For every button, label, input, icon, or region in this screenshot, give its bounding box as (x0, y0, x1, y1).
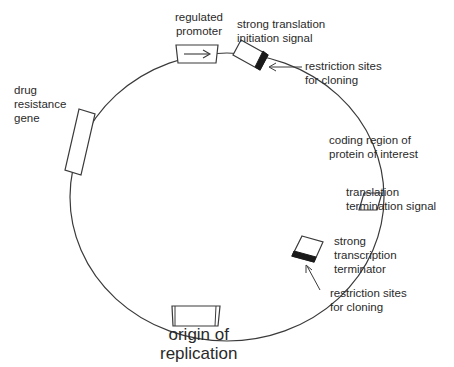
label-drug-resistance-gene: drug resistance gene (14, 83, 66, 125)
label-coding-region: coding region of protein of interest (329, 133, 418, 161)
label-translation-initiation-signal: strong translation initiation signal (237, 17, 325, 45)
label-translation-termination-signal: translation termination signal (346, 185, 436, 213)
label-transcription-terminator: strong transcription terminator (334, 234, 397, 276)
label-line: restriction sites (330, 286, 407, 300)
label-line: resistance (14, 97, 66, 111)
label-line: terminator (334, 262, 397, 276)
label-line: for cloning (305, 73, 382, 87)
label-line: origin of (160, 325, 238, 344)
label-line: strong (334, 234, 397, 248)
label-line: transcription (334, 248, 397, 262)
regulated-promoter-box (176, 45, 218, 63)
label-line: coding region of (329, 133, 418, 147)
label-line: restriction sites (305, 59, 382, 73)
restriction-sites-bottom-pointer (306, 265, 320, 290)
label-line: regulated (175, 10, 223, 24)
label-line: drug (14, 83, 66, 97)
label-origin-of-replication: origin of replication (160, 325, 238, 363)
label-line: replication (160, 344, 238, 363)
label-line: promoter (175, 24, 223, 38)
label-line: initiation signal (237, 31, 325, 45)
transcription-terminator-box (292, 236, 323, 262)
label-line: protein of interest (329, 147, 418, 161)
label-line: strong translation (237, 17, 325, 31)
label-regulated-promoter: regulated promoter (175, 10, 223, 38)
label-line: termination signal (346, 199, 436, 213)
label-line: gene (14, 111, 66, 125)
restriction-sites-top-pointer (269, 63, 302, 71)
label-restriction-sites-bottom: restriction sites for cloning (330, 286, 407, 314)
label-line: translation (346, 185, 436, 199)
label-restriction-sites-top: restriction sites for cloning (305, 59, 382, 87)
label-line: for cloning (330, 300, 407, 314)
drug-resistance-gene-box (65, 109, 95, 175)
plasmid-diagram: regulated promoter strong translation in… (0, 0, 454, 367)
origin-of-replication-box (172, 306, 220, 326)
